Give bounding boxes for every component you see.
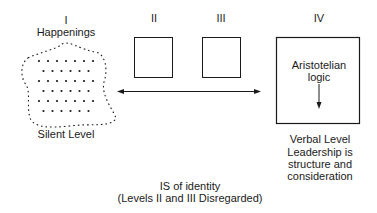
- dot-grid: [38, 60, 94, 112]
- level-i-caption: Silent Level: [26, 128, 106, 141]
- level-iii-box: [203, 38, 241, 78]
- happenings-blob: [22, 43, 116, 127]
- identity-subcaption: (Levels II and III Disregarded): [100, 192, 280, 205]
- level-iv-statement-3: consideration: [280, 170, 360, 183]
- level-iv-box-text-2: logic: [280, 71, 358, 84]
- double-arrow-icon: [117, 89, 261, 94]
- level-iii-numeral: III: [211, 12, 231, 25]
- level-i-title: Happenings: [26, 26, 106, 39]
- level-ii-box: [135, 38, 173, 78]
- down-arrow-icon: [317, 84, 322, 109]
- level-iv-caption: Verbal Level: [280, 133, 360, 146]
- level-ii-numeral: II: [144, 12, 164, 25]
- level-iv-numeral: IV: [308, 12, 330, 25]
